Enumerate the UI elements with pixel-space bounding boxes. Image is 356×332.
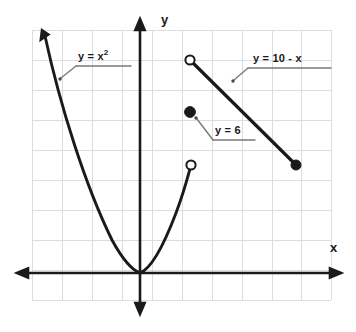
x-axis-label: x xyxy=(330,240,337,255)
annotation-superscript-parabola: 2 xyxy=(104,48,109,57)
leader-line-segment-diagonal xyxy=(234,68,248,80)
filled-dot-y-equals-6 xyxy=(185,107,196,118)
annotation-label-line: y = 10 - x xyxy=(253,52,302,64)
graph-figure: y x y = x2 y = 10 - x y = 6 xyxy=(0,0,356,332)
leader-lines xyxy=(58,66,331,140)
open-circle-segment-start xyxy=(185,55,194,64)
leader-dot-parabola xyxy=(58,77,61,80)
grid-lines xyxy=(32,30,332,301)
y-axis-arrow-down xyxy=(135,303,144,314)
leader-dot-constant xyxy=(194,116,197,119)
annotation-label-parabola: y = x2 xyxy=(78,50,108,62)
open-circle-parabola-end xyxy=(186,160,195,169)
x-axis-arrow-left xyxy=(17,268,28,277)
leader-line-constant-diagonal xyxy=(197,119,213,140)
graph-canvas xyxy=(0,0,356,332)
annotation-label-constant: y = 6 xyxy=(215,124,241,136)
leader-dot-segment xyxy=(231,79,234,82)
leader-line-parabola-diagonal xyxy=(61,66,76,78)
x-axis-arrow-right xyxy=(330,268,341,277)
y-axis-label: y xyxy=(161,12,168,27)
y-axis-arrow-up xyxy=(135,19,144,30)
filled-dot-segment-end xyxy=(291,160,301,170)
annotation-text-parabola: y = x xyxy=(78,50,104,62)
